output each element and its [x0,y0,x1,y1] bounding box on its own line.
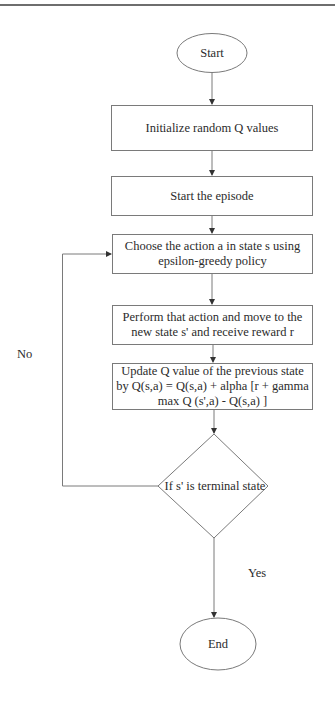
start-node-label: Start [177,34,247,72]
end-node-label: End [181,619,255,669]
perform-node-label: Perform that action and move to the new … [113,306,312,344]
init-node-label: Initialize random Q values [112,106,312,150]
no-edge-label: No [17,347,32,362]
yes-edge-label: Yes [248,566,266,581]
episode-node-label: Start the episode [112,177,312,215]
decision-node-label: If s' is terminal state [163,477,267,495]
update-node-label: Update Q value of the previous state by … [113,364,312,409]
choose-node-label: Choose the action a in state s using eps… [113,235,312,273]
